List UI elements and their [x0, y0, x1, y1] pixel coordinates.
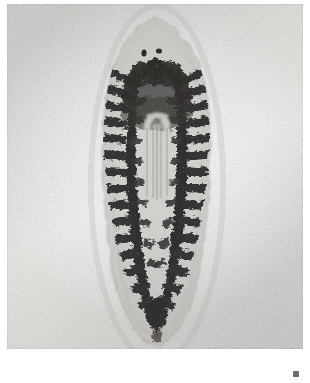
photographic-print — [7, 4, 303, 349]
specimen-flatworm — [7, 4, 303, 349]
scanned-page — [0, 0, 310, 383]
tonal-wash — [103, 18, 215, 348]
scan-artifact-mark — [293, 371, 299, 377]
